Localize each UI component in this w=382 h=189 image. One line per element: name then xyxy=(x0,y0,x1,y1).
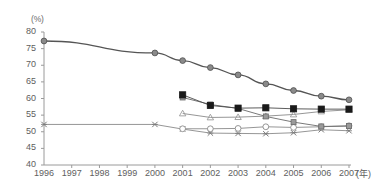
data-point-black-square xyxy=(346,106,352,112)
line-chart: (%) 807570656055504540 19961997199819992… xyxy=(0,0,382,189)
data-point-gray-square xyxy=(347,124,352,129)
x-axis-tick-label: 2001 xyxy=(168,168,198,178)
series-series-2 xyxy=(180,92,353,112)
y-axis-tick-label: 80 xyxy=(18,26,36,36)
data-point-black-square xyxy=(235,105,241,111)
data-point-open-circle xyxy=(235,126,241,132)
plot-area xyxy=(0,0,382,189)
data-point-gray-circle xyxy=(152,50,158,56)
y-axis-tick-label: 50 xyxy=(18,126,36,136)
y-axis-tick-label: 55 xyxy=(18,109,36,119)
data-point-gray-circle xyxy=(207,65,213,71)
y-axis-tick-label: 45 xyxy=(18,142,36,152)
data-point-black-square xyxy=(263,105,269,111)
y-axis-tick-label: 60 xyxy=(18,93,36,103)
y-axis-tick-label: 75 xyxy=(18,43,36,53)
x-axis-tick-label: 2004 xyxy=(251,168,281,178)
data-point-black-square xyxy=(290,106,296,112)
data-point-black-square xyxy=(180,92,186,98)
data-point-open-circle xyxy=(291,125,297,131)
data-point-gray-circle xyxy=(318,93,324,99)
data-point-gray-triangle xyxy=(179,110,185,116)
data-point-gray-square xyxy=(319,124,324,129)
data-point-gray-circle xyxy=(291,88,297,94)
data-point-gray-circle xyxy=(346,97,352,103)
x-axis-tick-label: 1997 xyxy=(57,168,87,178)
data-point-gray-circle xyxy=(263,81,269,87)
data-point-black-square xyxy=(207,102,213,108)
data-point-gray-circle xyxy=(41,38,47,44)
data-point-gray-square xyxy=(263,114,268,119)
x-axis-tick-label: 2003 xyxy=(223,168,253,178)
x-axis-tick-label: 1999 xyxy=(112,168,142,178)
data-point-open-circle xyxy=(180,126,186,132)
x-axis-tick-label: 1998 xyxy=(84,168,114,178)
axis-lines xyxy=(44,32,351,165)
x-axis-tick-label: 1996 xyxy=(29,168,59,178)
x-axis-tick-label: 2006 xyxy=(306,168,336,178)
data-point-open-circle xyxy=(263,124,269,130)
series-line xyxy=(44,41,349,100)
x-axis-tick-label: 2005 xyxy=(279,168,309,178)
data-point-x-cross xyxy=(152,122,158,127)
series-series-1 xyxy=(41,38,352,103)
x-axis-unit-label: (年) xyxy=(356,167,371,180)
data-point-black-square xyxy=(318,106,324,112)
data-point-x-cross xyxy=(291,130,297,135)
data-point-x-cross xyxy=(263,131,269,136)
data-point-open-circle xyxy=(207,126,213,132)
data-point-gray-square xyxy=(291,120,296,125)
y-axis-tick-label: 65 xyxy=(18,76,36,86)
x-axis-tick-label: 2000 xyxy=(140,168,170,178)
data-point-gray-circle xyxy=(180,58,186,64)
x-axis-tick-label: 2002 xyxy=(195,168,225,178)
data-point-gray-circle xyxy=(235,72,241,78)
y-axis-tick-label: 70 xyxy=(18,59,36,69)
